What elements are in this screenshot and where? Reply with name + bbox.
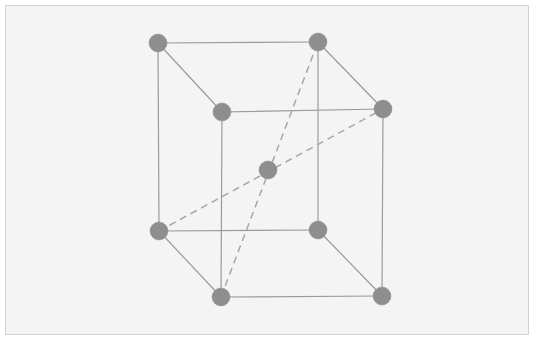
cube-edge-bottom-front	[221, 296, 382, 297]
atoms-group: back top left corner atomback top right …	[149, 33, 392, 306]
cube-edge-vertical-front-left	[221, 112, 222, 297]
atom-body-center: body center atom	[259, 161, 277, 179]
atom-front-top-right: front top right corner atom	[374, 100, 392, 118]
cube-edge-top-back	[158, 42, 318, 43]
atom-front-top-left: front top left corner atom	[213, 103, 231, 121]
atom-front-bottom-right: front bottom right corner atom	[373, 287, 391, 305]
atom-front-bottom-left: front bottom left corner atom	[212, 288, 230, 306]
cube-edge-bottom-back	[159, 230, 318, 231]
cube-edge-bottom-right-depth	[318, 230, 382, 296]
cube-edge-top-front	[222, 109, 383, 112]
cube-edge-top-right-depth	[318, 42, 383, 109]
figure-root: back top left corner atomback top right …	[0, 0, 535, 341]
atom-back-bottom-left: back bottom left corner atom	[150, 222, 168, 240]
atom-back-bottom-right: back bottom right corner atom	[309, 221, 327, 239]
cube-edge-bottom-left-depth	[159, 231, 221, 297]
atom-back-top-left: back top left corner atom	[149, 34, 167, 52]
cube-edge-vertical-front-right	[382, 109, 383, 296]
lattice-diagram: back top left corner atomback top right …	[0, 0, 535, 341]
cube-edge-vertical-back-left	[158, 43, 159, 231]
cube-edge-top-left-depth	[158, 43, 222, 112]
atom-back-top-right: back top right corner atom	[309, 33, 327, 51]
